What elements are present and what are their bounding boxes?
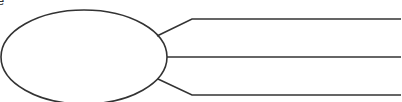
branch-line-bottom[interactable] <box>158 79 401 95</box>
central-oval[interactable] <box>1 10 167 102</box>
branch-line-top[interactable] <box>157 19 401 36</box>
graphic-organizer <box>0 0 402 102</box>
